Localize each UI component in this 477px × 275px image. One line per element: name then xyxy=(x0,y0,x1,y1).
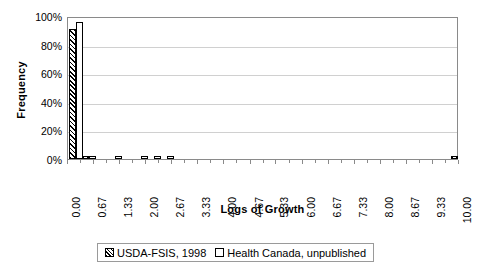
x-axis-minor-tick-mark xyxy=(367,160,368,163)
x-axis-tick-mark xyxy=(380,160,381,164)
legend-entry: Health Canada, unpublished xyxy=(215,247,366,259)
x-axis-title: Logs of Growth xyxy=(67,203,458,215)
legend-entry: USDA-FSIS, 1998 xyxy=(105,247,206,259)
y-axis-tick-labels: 0%20%40%60%80%100% xyxy=(20,12,62,160)
x-axis-tick-mark xyxy=(67,160,68,164)
y-axis-tick-label: 0% xyxy=(47,155,62,165)
y-axis-tick-label: 80% xyxy=(41,41,62,51)
plot-area xyxy=(67,17,458,160)
y-axis-tick-label: 100% xyxy=(35,12,62,22)
x-axis-tick-mark xyxy=(354,160,355,164)
legend-label: USDA-FSIS, 1998 xyxy=(117,247,206,259)
bar xyxy=(167,156,174,159)
x-axis-minor-tick-mark xyxy=(132,160,133,163)
x-axis-tick-mark xyxy=(458,160,459,164)
x-axis-minor-tick-mark xyxy=(445,160,446,163)
x-axis-tick-label: 10.00 xyxy=(462,197,473,223)
x-axis-tick-mark xyxy=(197,160,198,164)
bar xyxy=(451,156,458,159)
x-axis-minor-tick-mark xyxy=(315,160,316,163)
legend-label: Health Canada, unpublished xyxy=(227,247,366,259)
x-axis-tick-mark xyxy=(223,160,224,164)
x-axis-minor-tick-mark xyxy=(419,160,420,163)
x-axis-tick-mark xyxy=(250,160,251,164)
x-axis-minor-tick-mark xyxy=(393,160,394,163)
x-axis-minor-tick-mark xyxy=(341,160,342,163)
bar xyxy=(115,156,122,159)
y-axis-tick-label: 20% xyxy=(41,126,62,136)
legend-swatch-outline-icon xyxy=(215,248,224,257)
x-axis-tick-mark xyxy=(93,160,94,164)
x-axis-minor-tick-mark xyxy=(106,160,107,163)
chart-legend: USDA-FSIS, 1998Health Canada, unpublishe… xyxy=(97,243,374,262)
x-axis-minor-tick-mark xyxy=(158,160,159,163)
bar xyxy=(141,156,148,159)
x-axis-tick-mark xyxy=(275,160,276,164)
x-axis-tick-mark xyxy=(302,160,303,164)
x-axis-tick-mark xyxy=(171,160,172,164)
bar xyxy=(69,29,76,159)
bar xyxy=(89,156,96,159)
y-axis-tick-label: 40% xyxy=(41,98,62,108)
x-axis-tick-mark xyxy=(432,160,433,164)
bar xyxy=(154,156,161,159)
y-axis-tick-label: 60% xyxy=(41,69,62,79)
x-axis-minor-tick-mark xyxy=(184,160,185,163)
x-axis-minor-tick-mark xyxy=(210,160,211,163)
x-axis-minor-tick-mark xyxy=(289,160,290,163)
x-axis-minor-tick-mark xyxy=(80,160,81,163)
x-axis-tick-labels: 0.000.671.332.002.673.334.004.675.336.00… xyxy=(67,165,458,199)
x-axis-tick-mark xyxy=(328,160,329,164)
bars-layer xyxy=(68,18,457,159)
bar xyxy=(76,22,83,159)
x-axis-tick-mark xyxy=(145,160,146,164)
x-axis-tick-mark xyxy=(406,160,407,164)
x-axis-minor-tick-mark xyxy=(236,160,237,163)
x-axis-tick-mark xyxy=(119,160,120,164)
legend-swatch-hatched-icon xyxy=(105,248,114,257)
frequency-bar-chart: Frequency 0%20%40%60%80%100% 0.000.671.3… xyxy=(0,0,477,275)
x-axis-minor-tick-mark xyxy=(263,160,264,163)
